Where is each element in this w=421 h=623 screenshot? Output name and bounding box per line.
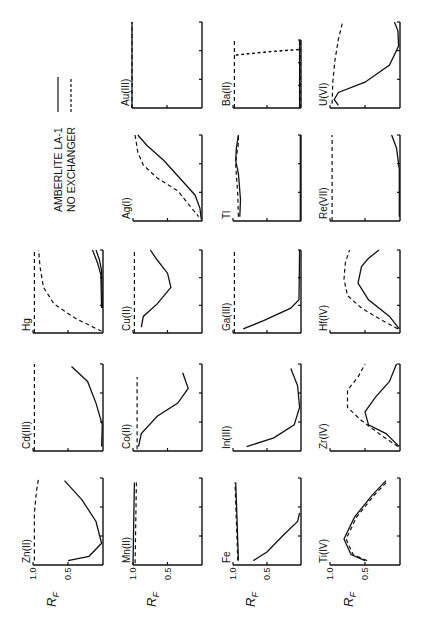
tick-label-05: 0.5 bbox=[262, 567, 272, 580]
plot-grid: Au(III)Ba(II)U(VI)Ag(I)TlRe(VII)HgCu(II)… bbox=[21, 22, 400, 607]
rf-figure: Au(III)Ba(II)U(VI)Ag(I)TlRe(VII)HgCu(II)… bbox=[0, 0, 421, 623]
dashed-curve bbox=[135, 482, 136, 563]
element-label: Co(II) bbox=[121, 424, 132, 449]
plot-hf-iv-: Hf(IV) bbox=[318, 250, 400, 333]
element-label: Mn(II) bbox=[121, 537, 132, 563]
plot-co-ii-: Co(II) bbox=[121, 364, 202, 451]
plot-hg: Hg bbox=[21, 250, 103, 333]
plot-ti-iv-: Ti(IV)1.00.5RF bbox=[318, 478, 400, 607]
element-label: Hf(IV) bbox=[318, 305, 329, 331]
tick-label-1: 1.0 bbox=[28, 567, 38, 580]
solid-curve bbox=[243, 250, 299, 329]
plot-tl: Tl bbox=[221, 135, 301, 221]
element-label: Cd(III) bbox=[21, 421, 32, 449]
tick-label-1: 1.0 bbox=[128, 567, 138, 580]
legend-solid-label: AMBERLITE LA-1 bbox=[52, 127, 64, 212]
solid-curve bbox=[236, 482, 239, 560]
dotted-curve bbox=[236, 50, 299, 56]
dashed-curve bbox=[34, 478, 38, 561]
tick-label-05: 0.5 bbox=[63, 567, 73, 580]
solid-curve bbox=[65, 481, 102, 561]
element-label: Zn(II) bbox=[21, 539, 32, 563]
tick-label-1: 1.0 bbox=[325, 567, 335, 580]
solid-curve bbox=[253, 513, 299, 561]
plot-zr-iv-: Zr(IV) bbox=[318, 364, 400, 451]
element-label: Hg bbox=[21, 318, 32, 331]
tick-label-05: 0.5 bbox=[163, 567, 173, 580]
dashed-curve bbox=[348, 364, 398, 447]
element-label: Tl bbox=[221, 211, 232, 219]
plot-in-iii-: In(III) bbox=[221, 364, 301, 451]
element-label: Au(III) bbox=[120, 79, 131, 106]
solid-curve bbox=[236, 135, 241, 217]
element-label: U(VI) bbox=[318, 83, 329, 106]
solid-curve bbox=[72, 367, 103, 447]
element-label: Cu(II) bbox=[121, 306, 132, 331]
element-label: Re(VII) bbox=[318, 187, 329, 219]
plot-cu-ii-: Cu(II) bbox=[121, 250, 202, 333]
tick-label-05: 0.5 bbox=[360, 567, 370, 580]
element-label: Ag(I) bbox=[121, 197, 132, 219]
solid-curve bbox=[392, 135, 400, 217]
solid-curve bbox=[138, 135, 202, 219]
rf-axis-label: RF bbox=[44, 592, 61, 607]
element-label: Zr(IV) bbox=[318, 423, 329, 449]
rf-axis-label: RF bbox=[243, 592, 260, 607]
plot-zn-ii-: Zn(II)1.00.5RF bbox=[21, 478, 103, 607]
rf-axis-label: RF bbox=[144, 592, 161, 607]
solid-curve bbox=[365, 364, 399, 447]
dashed-curve bbox=[39, 250, 102, 331]
plot-cd-iii-: Cd(III) bbox=[21, 364, 103, 451]
solid-curve bbox=[93, 250, 102, 308]
plot-ag-i-: Ag(I) bbox=[121, 135, 202, 221]
tick-label-1: 1.0 bbox=[228, 567, 238, 580]
element-label: Ga(III) bbox=[221, 303, 232, 331]
element-label: Fe bbox=[221, 551, 232, 563]
solid-curve bbox=[139, 373, 189, 447]
solid-curve bbox=[133, 482, 134, 565]
solid-curve bbox=[247, 368, 300, 446]
dashed-curve bbox=[135, 135, 199, 217]
plot-mn-ii-: Mn(II)1.00.5RF bbox=[121, 478, 202, 607]
solid-curve bbox=[358, 250, 399, 329]
plot-ga-iii-: Ga(III) bbox=[221, 250, 301, 333]
plot-re-vii-: Re(VII) bbox=[318, 135, 400, 221]
element-label: Ti(IV) bbox=[318, 539, 329, 563]
plot-fe: Fe1.00.5RF bbox=[221, 478, 301, 607]
rf-axis-label: RF bbox=[341, 592, 358, 607]
solid-curve bbox=[334, 22, 398, 105]
legend-dashed-label: NO EXCHANGER bbox=[65, 126, 77, 212]
element-label: In(III) bbox=[221, 426, 232, 449]
element-label: Ba(II) bbox=[221, 82, 232, 106]
solid-curve bbox=[141, 250, 171, 327]
plot-au-iii-: Au(III) bbox=[120, 22, 202, 108]
plot-u-vi-: U(VI) bbox=[318, 22, 400, 108]
plot-ba-ii-: Ba(II) bbox=[221, 40, 301, 108]
legend: AMBERLITE LA-1 NO EXCHANGER bbox=[52, 77, 77, 212]
